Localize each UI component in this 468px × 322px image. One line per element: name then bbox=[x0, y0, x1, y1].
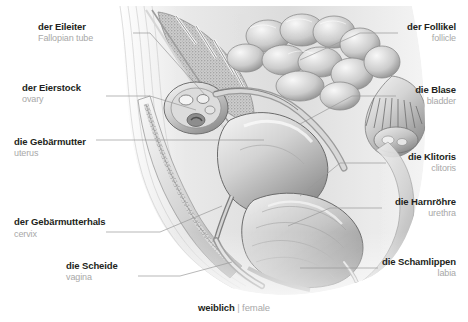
label-bladder-de: die Blase bbox=[415, 85, 456, 95]
label-uterus: die Gebärmutter uterus bbox=[14, 137, 86, 158]
label-ovary-de: der Eierstock bbox=[22, 83, 81, 93]
label-vagina: die Scheide vagina bbox=[66, 261, 118, 282]
label-follicle-en: follicle bbox=[407, 34, 456, 43]
label-urethra-de: die Harnröhre bbox=[395, 197, 456, 207]
label-follicle: der Follikel follicle bbox=[407, 22, 456, 43]
label-urethra: die Harnröhre urethra bbox=[395, 197, 456, 218]
label-bladder: die Blase bladder bbox=[415, 85, 456, 106]
caption-en: female bbox=[242, 302, 270, 313]
label-vagina-de: die Scheide bbox=[66, 261, 118, 271]
label-bladder-en: bladder bbox=[415, 97, 456, 106]
label-cervix: der Gebärmutterhals cervix bbox=[14, 216, 110, 239]
caption-separator: | bbox=[237, 302, 239, 313]
label-labia-en: labia bbox=[382, 269, 456, 278]
figure-caption: weiblich | female bbox=[0, 302, 468, 313]
label-clitoris-en: clitoris bbox=[408, 164, 456, 173]
label-clitoris-de: die Klitoris bbox=[408, 152, 456, 162]
label-urethra-en: urethra bbox=[395, 209, 456, 218]
label-clitoris: die Klitoris clitoris bbox=[408, 152, 456, 173]
label-ovary-en: ovary bbox=[22, 95, 81, 104]
label-cervix-de: der Gebärmutterhals bbox=[14, 216, 110, 228]
anatomy-figure: der Eileiter Fallopian tube der Eierstoc… bbox=[0, 0, 468, 322]
label-labia-de: die Schamlippen bbox=[382, 257, 456, 267]
label-ovary: der Eierstock ovary bbox=[22, 83, 81, 104]
label-cervix-en: cervix bbox=[14, 230, 110, 239]
label-uterus-de: die Gebärmutter bbox=[14, 137, 86, 147]
label-fallopian-tube: der Eileiter Fallopian tube bbox=[38, 22, 93, 43]
label-vagina-en: vagina bbox=[66, 273, 118, 282]
label-uterus-en: uterus bbox=[14, 149, 86, 158]
caption-de: weiblich bbox=[198, 302, 235, 313]
label-labia: die Schamlippen labia bbox=[382, 257, 456, 278]
label-fallopian-tube-de: der Eileiter bbox=[38, 22, 93, 32]
label-fallopian-tube-en: Fallopian tube bbox=[38, 34, 93, 43]
label-follicle-de: der Follikel bbox=[407, 22, 456, 32]
